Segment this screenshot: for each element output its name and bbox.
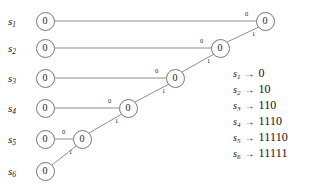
legend-codeword: 110: [258, 98, 276, 113]
tree-node-leaf-s5: 0: [36, 130, 55, 149]
legend-symbol: s3: [233, 100, 240, 111]
source-label-s3: s3: [8, 72, 16, 84]
right-arrow-icon: →: [240, 132, 258, 143]
legend-symbol: s6: [233, 148, 240, 159]
edge-bit-label-e-m3-m4: 1: [207, 58, 210, 65]
tree-node-leaf-s3: 0: [36, 69, 55, 88]
legend-row: s3→110: [233, 98, 311, 114]
edge-bit-label-e-s5-m1: 0: [62, 129, 65, 136]
codeword-legend: s1→0s2→10s3→110s4→1110s5→11110s6→11111: [233, 66, 311, 162]
tree-node-merge-2: 0: [119, 99, 138, 118]
edge-bit-label-e-s3-m3: 0: [155, 68, 158, 75]
edge-bit-label-e-s4-m2: 0: [108, 98, 111, 105]
tree-node-leaf-s6: 0: [36, 162, 55, 181]
right-arrow-icon: →: [240, 148, 258, 159]
source-label-s1: s1: [8, 15, 16, 27]
legend-row: s4→1110: [233, 114, 311, 130]
legend-symbol: s4: [233, 116, 240, 127]
edge-bit-label-e-m4-root: 1: [252, 31, 255, 38]
legend-symbol: s5: [233, 132, 240, 143]
tree-node-merge-root: 0: [256, 12, 275, 31]
source-label-s5: s5: [8, 133, 16, 145]
legend-codeword: 1110: [258, 114, 282, 129]
right-arrow-icon: →: [240, 68, 258, 79]
tree-node-leaf-s4: 0: [36, 99, 55, 118]
legend-symbol: s2: [233, 84, 240, 95]
right-arrow-icon: →: [240, 84, 258, 95]
source-label-s4: s4: [8, 102, 16, 114]
tree-node-leaf-s2: 0: [36, 39, 55, 58]
edge-bit-label-e-m2-m3: 1: [162, 88, 165, 95]
edge-bit-label-e-m1-m2: 1: [115, 118, 118, 125]
right-arrow-icon: →: [240, 116, 258, 127]
legend-row: s5→11110: [233, 130, 311, 146]
legend-codeword: 11111: [258, 146, 287, 161]
edge-bit-label-e-s1-root: 0: [245, 11, 248, 18]
edge-bit-label-e-s6-m1: 1: [69, 149, 72, 156]
legend-codeword: 0: [258, 66, 264, 81]
tree-node-leaf-s1: 0: [36, 12, 55, 31]
tree-node-merge-3: 0: [166, 69, 185, 88]
source-label-s6: s6: [8, 165, 16, 177]
tree-node-merge-4: 0: [211, 39, 230, 58]
right-arrow-icon: →: [240, 100, 258, 111]
tree-edge-e-s6-m1: [52, 146, 76, 165]
huffman-code-tree-figure: s1s2s3s4s5s6 00000000000 0101010101 s1→0…: [0, 0, 312, 193]
legend-row: s6→11111: [233, 146, 311, 162]
legend-row: s2→10: [233, 82, 311, 98]
legend-row: s1→0: [233, 66, 311, 82]
legend-codeword: 11110: [258, 130, 288, 145]
legend-codeword: 10: [258, 82, 270, 97]
tree-node-merge-1: 0: [73, 130, 92, 149]
source-label-s2: s2: [8, 42, 16, 54]
edge-bit-label-e-s2-m4: 0: [200, 38, 203, 45]
legend-symbol: s1: [233, 68, 240, 79]
